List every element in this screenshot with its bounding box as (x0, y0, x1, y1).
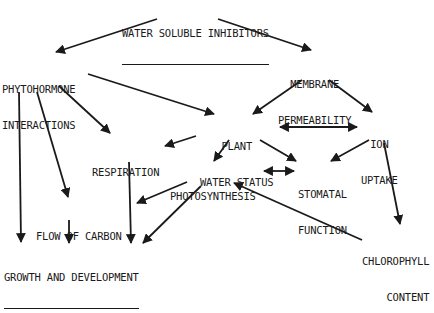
node-label: GROWTH AND DEVELOPMENT (4, 271, 139, 283)
node-membrane-permeability: MEMBRANE PERMEABILITY (278, 54, 351, 150)
node-label: INTERACTIONS (2, 119, 75, 131)
node-water-soluble-inhibitors: WATER SOLUBLE INHIBITORS (122, 3, 269, 65)
node-label: RESPIRATION (92, 166, 159, 178)
arrow-plant-water-status-to-respiration (165, 136, 196, 146)
node-phytohormone-interactions: PHYTOHORMONE INTERACTIONS (2, 59, 75, 155)
node-photosynthesis: PHOTOSYNTHESIS (170, 166, 256, 226)
node-label: PHYTOHORMONE (2, 83, 75, 95)
node-label: PERMEABILITY (278, 114, 351, 126)
node-label: PHOTOSYNTHESIS (170, 190, 256, 202)
node-stomatal-function: STOMATAL FUNCTION (298, 164, 347, 260)
node-chlorophyll-content: CHLOROPHYLL CONTENT (362, 231, 429, 313)
node-label: ION (361, 138, 398, 150)
node-label: CONTENT (362, 291, 429, 303)
node-label: PLANT (200, 140, 273, 152)
node-label: FUNCTION (298, 224, 347, 236)
node-growth-and-development: GROWTH AND DEVELOPMENT (4, 247, 139, 309)
arrow-phytohormone-interactions-to-plant-water-status (88, 74, 214, 114)
node-label: UPTAKE (361, 174, 398, 186)
node-label: STOMATAL (298, 188, 347, 200)
node-label: FLOW OF CARBON (36, 230, 122, 242)
node-label: CHLOROPHYLL (362, 255, 429, 267)
node-respiration: RESPIRATION (92, 142, 159, 202)
node-label: MEMBRANE (278, 78, 351, 90)
node-label: WATER SOLUBLE INHIBITORS (122, 27, 269, 39)
node-ion-uptake: ION UPTAKE (361, 114, 398, 210)
